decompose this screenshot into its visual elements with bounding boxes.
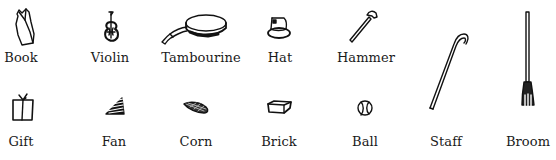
brick-icon [266,100,294,116]
label-hammer: Hammer [337,50,395,65]
label-hat: Hat [268,50,293,65]
label-brick: Brick [261,134,297,149]
broom-icon [518,10,538,110]
label-corn: Corn [180,134,213,149]
label-ball: Ball [352,134,378,149]
corn-icon [182,100,210,116]
staff-icon [426,30,476,114]
label-fan: Fan [102,134,127,149]
ball-icon [356,99,374,117]
label-violin: Violin [91,50,129,65]
hammer-icon [347,10,381,46]
book-icon [14,8,36,48]
tambourine-icon [160,12,230,48]
gift-icon [10,92,36,122]
label-gift: Gift [9,134,34,149]
hat-icon [266,16,294,40]
fan-icon [102,96,126,118]
label-broom: Broom [506,134,550,149]
violin-icon [101,10,121,46]
label-tambourine: Tambourine [161,50,241,65]
label-staff: Staff [430,134,462,149]
label-book: Book [4,50,37,65]
